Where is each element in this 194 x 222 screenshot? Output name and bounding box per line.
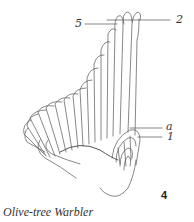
wing-base-curve [100, 160, 136, 196]
label-primary-2: 2 [176, 14, 183, 25]
label-primary-5: 5 [75, 18, 82, 29]
caption: Olive-tree Warbler [3, 206, 93, 218]
label-primary-1: 1 [167, 131, 174, 142]
figure-number: 4 [161, 190, 167, 201]
inner-wing-outline [38, 140, 76, 178]
primary-feathers [24, 12, 141, 157]
alula [112, 130, 140, 170]
inner-wing-outline-2 [46, 140, 80, 164]
covert-edge [60, 145, 118, 160]
